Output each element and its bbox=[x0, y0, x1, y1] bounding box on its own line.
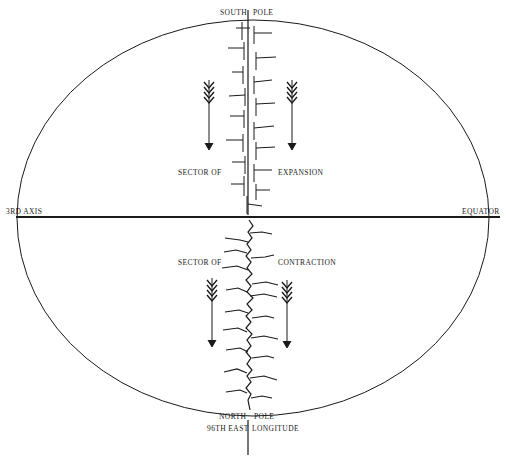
longitude-label-left: 96TH EAST bbox=[207, 424, 249, 433]
globe-outline bbox=[17, 20, 489, 416]
north-pole-label-right: POLE bbox=[254, 412, 274, 421]
longitude-label-right: LONGITUDE bbox=[252, 424, 299, 433]
south-pole-label-right: POLE bbox=[253, 8, 273, 17]
expansion-fissures bbox=[226, 22, 276, 214]
south-pole-label-left: SOUTH bbox=[220, 8, 247, 17]
north-pole-label-left: NORTH bbox=[219, 412, 246, 421]
contraction-sector-label-left: SECTOR OF bbox=[178, 258, 222, 267]
expansion-sector-label-left: SECTOR OF bbox=[178, 168, 222, 177]
third-axis-label: 3RD AXIS bbox=[6, 207, 42, 216]
contraction-fissures bbox=[222, 220, 278, 410]
expansion-sector-label-right: EXPANSION bbox=[278, 168, 323, 177]
earth-expansion-diagram bbox=[0, 0, 506, 460]
arrow-lower-left bbox=[207, 278, 217, 347]
arrow-upper-left bbox=[204, 80, 214, 150]
contraction-sector-label-right: CONTRACTION bbox=[278, 258, 336, 267]
arrow-lower-right bbox=[282, 280, 292, 348]
arrow-upper-right bbox=[287, 80, 297, 150]
equator-label: EQUATOR bbox=[462, 207, 500, 216]
